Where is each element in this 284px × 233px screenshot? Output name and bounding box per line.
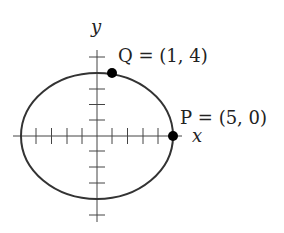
point-q <box>107 68 117 78</box>
point-p-label: P = (5, 0) <box>180 107 267 128</box>
y-axis-label: y <box>90 16 102 37</box>
point-q-label: Q = (1, 4) <box>118 45 208 66</box>
x-axis-label: x <box>192 125 202 146</box>
point-p <box>168 131 178 141</box>
ellipse-diagram: y x Q = (1, 4) P = (5, 0) <box>0 0 284 233</box>
